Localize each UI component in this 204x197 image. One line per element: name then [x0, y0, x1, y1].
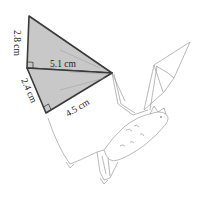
label-2-8-cm: 2.8 cm: [12, 30, 22, 56]
label-5-1-cm: 5.1 cm: [50, 59, 76, 69]
bat-wing-diagram: 2.8 cm 5.1 cm 2.4 cm 4.5 cm: [0, 0, 204, 197]
